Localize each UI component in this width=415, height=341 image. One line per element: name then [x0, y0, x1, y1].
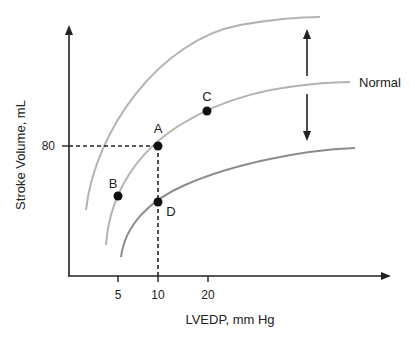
frank-starling-diagram: A B C D Normal 5 10 20 80 LVEDP, mm Hg S… [0, 0, 415, 341]
point-c [203, 107, 212, 116]
y-axis [65, 25, 73, 276]
point-a [154, 142, 163, 151]
point-label-a: A [154, 121, 163, 136]
x-tick-10: 10 [151, 288, 165, 302]
point-b [114, 192, 123, 201]
x-tick-5: 5 [115, 288, 122, 302]
upper-curve [86, 17, 320, 210]
point-label-d: D [166, 204, 175, 219]
x-axis [68, 272, 391, 280]
x-axis-label: LVEDP, mm Hg [185, 312, 274, 327]
normal-curve-label: Normal [359, 75, 401, 90]
x-tick-20: 20 [201, 288, 215, 302]
point-d [154, 198, 163, 207]
normal-curve [106, 82, 350, 245]
x-axis-arrow-icon [381, 272, 391, 280]
y-axis-arrow-icon [65, 25, 73, 35]
y-tick-80: 80 [42, 139, 56, 153]
point-label-b: B [109, 176, 118, 191]
y-axis-label: Stroke Volume, mL [13, 100, 28, 210]
point-label-c: C [202, 89, 211, 104]
